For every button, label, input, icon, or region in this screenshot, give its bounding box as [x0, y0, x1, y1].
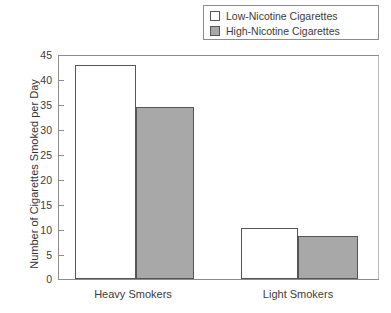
- legend-label-low-nicotine: Low-Nicotine Cigarettes: [226, 10, 337, 22]
- y-tick-label: 35: [28, 99, 52, 111]
- legend-swatch-high-nicotine-icon: [210, 26, 220, 36]
- x-axis-category-label-light-smokers: Light Smokers: [263, 288, 333, 300]
- y-tick-label: 20: [28, 174, 52, 186]
- y-tick-label: 10: [28, 224, 52, 236]
- y-axis-tick: [59, 255, 64, 256]
- chart-plot-area: [58, 55, 379, 280]
- bar-light-smokers-high-nicotine: [298, 236, 358, 279]
- y-tick-label: 0: [28, 273, 52, 285]
- x-axis-category-label-heavy-smokers: Heavy Smokers: [94, 288, 172, 300]
- bar-heavy-smokers-high-nicotine: [136, 107, 194, 279]
- plot-right-edge: [378, 56, 379, 279]
- y-tick-label: 45: [28, 49, 52, 61]
- y-axis-tick: [59, 180, 64, 181]
- y-axis-tick: [59, 80, 64, 81]
- legend-label-high-nicotine: High-Nicotine Cigarettes: [226, 25, 340, 37]
- y-axis-tick: [59, 105, 64, 106]
- y-tick-label: 40: [28, 74, 52, 86]
- y-tick-label: 5: [28, 249, 52, 261]
- y-tick-label: 15: [28, 199, 52, 211]
- bar-light-smokers-low-nicotine: [241, 228, 298, 279]
- bar-heavy-smokers-low-nicotine: [75, 65, 136, 279]
- legend-swatch-low-nicotine-icon: [210, 11, 220, 21]
- y-axis-tick: [59, 230, 64, 231]
- y-axis-tick: [59, 130, 64, 131]
- y-axis-tick-labels: 45 40 35 30 25 20 15 10 5 0: [28, 55, 52, 280]
- y-tick-label: 30: [28, 124, 52, 136]
- y-axis-tick: [59, 205, 64, 206]
- y-tick-label: 25: [28, 149, 52, 161]
- legend-item-low-nicotine: Low-Nicotine Cigarettes: [210, 9, 378, 23]
- legend-item-high-nicotine: High-Nicotine Cigarettes: [210, 24, 378, 38]
- y-axis-tick: [59, 155, 64, 156]
- chart-legend: Low-Nicotine Cigarettes High-Nicotine Ci…: [203, 5, 379, 40]
